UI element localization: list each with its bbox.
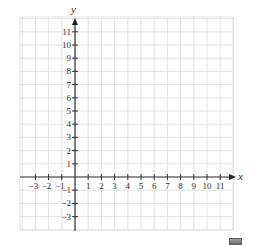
x-tick-label: 3 [112,181,117,191]
y-tick-label: 5 [67,106,72,116]
x-tick-label: 8 [178,181,183,191]
y-tick-label: 6 [67,93,72,103]
x-tick-label: 1 [86,181,91,191]
x-tick-label: 9 [192,181,197,191]
x-tick-label: 6 [152,181,157,191]
x-tick-label: 5 [139,181,144,191]
y-tick-label: 4 [67,119,72,129]
y-tick-label: 3 [67,132,72,142]
x-tick-label: 10 [203,181,213,191]
y-tick-label: 1 [67,159,72,169]
x-axis-label: x [237,170,243,182]
x-tick-label: 11 [216,181,225,191]
y-tick-label: −1 [61,185,71,195]
x-tick-label: 2 [99,181,104,191]
y-tick-label: −2 [61,198,71,208]
y-tick-label: 2 [67,146,72,156]
x-axis-arrow-icon [229,174,236,180]
coordinate-plane: x y −3−2−11234567891011 1110987654321−1−… [0,0,255,245]
x-tick-label: 4 [126,181,131,191]
y-tick-label: 11 [62,27,71,37]
grid-border [20,17,233,230]
y-tick-label: 7 [67,80,72,90]
x-tick-label: 7 [165,181,170,191]
y-axis-label: y [70,3,76,15]
y-axis-arrow-icon [72,18,78,25]
y-tick-label: 8 [67,66,72,76]
y-tick-label: 10 [62,40,72,50]
x-tick-label: −2 [42,181,52,191]
x-tick-label: −3 [29,181,39,191]
grid-lines [20,17,233,230]
axes: x y [20,3,243,231]
gray-button[interactable] [229,238,242,245]
y-tick-label: 9 [67,53,72,63]
y-tick-label: −3 [61,212,71,222]
